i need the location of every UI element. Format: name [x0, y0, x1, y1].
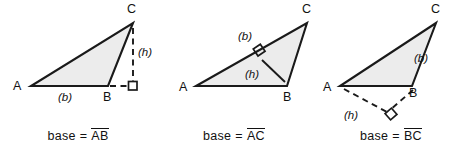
vertex-label-b-1: B [103, 90, 111, 104]
panel-3-group: A B C (b) (h) [323, 2, 440, 121]
caption-panel-2: base=AC [156, 128, 312, 143]
vertex-label-c-1: C [127, 2, 136, 16]
vertex-label-c-2: C [302, 2, 311, 16]
vertex-label-a-2: A [179, 80, 188, 94]
base-label-1: (b) [58, 91, 72, 103]
caption-base-word-3: base [360, 129, 388, 143]
caption-segment-3: BC [404, 128, 422, 143]
height-label-1: (h) [138, 46, 152, 58]
caption-panel-3: base=BC [313, 128, 469, 143]
triangle-base-height-figure: A B C (b) (h) A B C (b) (h) [0, 0, 469, 155]
panel-1-group: A B C (b) (h) [13, 2, 152, 104]
caption-equals-1: = [80, 129, 88, 143]
caption-base-word-2: base [203, 129, 231, 143]
vertex-label-a-3: A [323, 80, 332, 94]
right-angle-marker-3 [385, 108, 397, 120]
vertex-label-b-3: B [409, 86, 417, 100]
caption-equals-2: = [235, 129, 243, 143]
vertex-label-c-3: C [431, 2, 440, 16]
caption-segment-1: AB [91, 128, 108, 143]
caption-equals-3: = [392, 129, 400, 143]
caption-segment-2: AC [247, 128, 265, 143]
height-label-3: (h) [344, 109, 358, 121]
vertex-label-a-1: A [13, 79, 22, 93]
vertex-label-b-2: B [283, 90, 291, 104]
panel-2-group: A B C (b) (h) [179, 2, 311, 104]
base-label-2: (b) [238, 30, 252, 42]
right-angle-marker-1 [129, 82, 138, 91]
caption-panel-1: base=AB [0, 128, 156, 143]
base-label-3: (b) [414, 52, 428, 64]
caption-base-word-1: base [47, 129, 75, 143]
height-label-2: (h) [245, 68, 259, 80]
